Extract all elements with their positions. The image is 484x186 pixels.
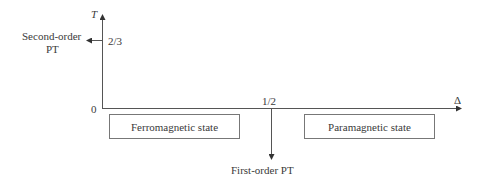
first-order-label: First-order PT [231, 164, 294, 176]
x-tick-label: 1/2 [262, 95, 276, 107]
phase-diagram-lines [0, 0, 484, 186]
second-order-label: Second-order [22, 30, 81, 42]
second-order-label-line2: PT [46, 43, 59, 55]
ferromagnetic-state-box: Ferromagnetic state [109, 114, 240, 139]
y-axis-label: T [91, 8, 97, 20]
ferromagnetic-state-label: Ferromagnetic state [131, 121, 218, 133]
y-tick-label: 2/3 [108, 35, 122, 47]
origin-label: 0 [91, 103, 97, 115]
x-axis-label: Δ [454, 94, 461, 106]
paramagnetic-state-box: Paramagnetic state [304, 114, 435, 139]
paramagnetic-state-label: Paramagnetic state [328, 121, 411, 133]
